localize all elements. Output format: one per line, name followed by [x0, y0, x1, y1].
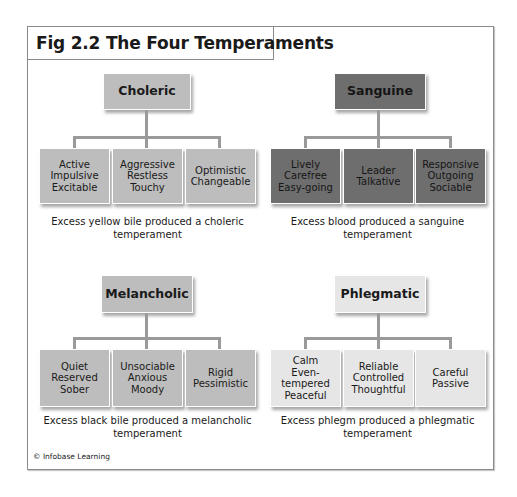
- trait-box: Optimistic Changeable: [185, 148, 256, 204]
- figure-title: Fig 2.2 The Four Temperaments: [36, 33, 334, 53]
- connector-vertical: [145, 313, 148, 339]
- connector-drop: [304, 337, 307, 349]
- connector-drop: [377, 136, 380, 148]
- connector-vertical: [377, 110, 380, 138]
- trait-box: Unsociable Anxious Moody: [112, 349, 183, 407]
- temperament-box-phlegmatic: Phlegmatic: [334, 275, 426, 313]
- trait-box: Active Impulsive Excitable: [39, 148, 110, 204]
- copyright-credit: © Infobase Learning: [33, 452, 110, 461]
- connector-drop: [218, 337, 221, 349]
- trait-box: Careful Passive: [415, 349, 486, 407]
- figure-title-box: Fig 2.2 The Four Temperaments: [27, 26, 274, 60]
- trait-box: Responsive Outgoing Sociable: [415, 148, 486, 204]
- trait-box: Lively Carefree Easy-going: [270, 148, 341, 204]
- trait-box: Reliable Controlled Thoughtful: [343, 349, 414, 407]
- temperament-caption: Excess yellow bile produced a choleric t…: [35, 215, 260, 241]
- connector-vertical: [377, 313, 380, 339]
- connector-drop: [218, 136, 221, 148]
- trait-box: Leader Talkative: [343, 148, 414, 204]
- trait-box: Quiet Reserved Sober: [39, 349, 110, 407]
- trait-box: Calm Even- tempered Peaceful: [270, 349, 341, 407]
- temperament-caption: Excess blood produced a sanguine tempera…: [265, 215, 490, 241]
- connector-drop: [73, 136, 76, 148]
- connector-drop: [73, 337, 76, 349]
- temperament-box-choleric: Choleric: [103, 73, 191, 110]
- trait-box: Rigid Pessimistic: [185, 349, 256, 407]
- temperament-caption: Excess phlegm produced a phlegmatic temp…: [265, 414, 490, 440]
- connector-drop: [449, 136, 452, 148]
- connector-drop: [145, 337, 148, 349]
- trait-box: Aggressive Restless Touchy: [112, 148, 183, 204]
- connector-drop: [145, 136, 148, 148]
- temperament-box-sanguine: Sanguine: [334, 73, 426, 110]
- connector-drop: [304, 136, 307, 148]
- temperament-caption: Excess black bile produced a melancholic…: [30, 414, 265, 440]
- connector-drop: [449, 337, 452, 349]
- temperament-box-melancholic: Melancholic: [101, 275, 193, 313]
- connector-vertical: [145, 110, 148, 138]
- connector-drop: [377, 337, 380, 349]
